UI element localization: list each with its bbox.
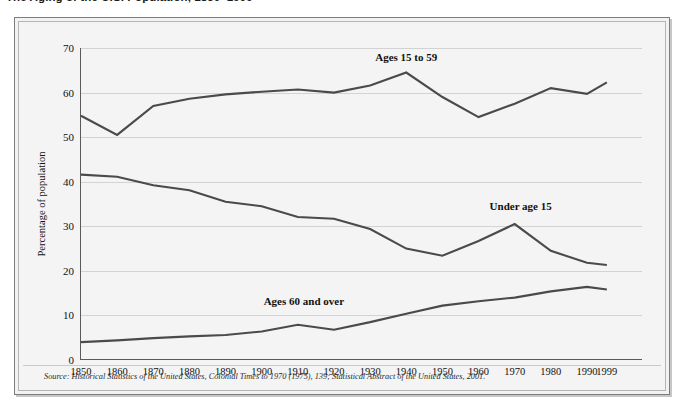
y-tick-60: 60 [63, 87, 74, 99]
chart-panel: Percentage of population 010203040506070… [14, 17, 670, 395]
series-label-old: Ages 60 and over [264, 295, 344, 307]
chart-panel-inner: Percentage of population 010203040506070… [18, 21, 666, 391]
y-tick-20: 20 [63, 265, 74, 277]
series-label-working: Ages 15 to 59 [375, 51, 437, 63]
y-tick-70: 70 [63, 42, 74, 54]
source-note: Source: Historical Statistics of the Uni… [44, 372, 485, 381]
page-title: The Aging of the U.S. Population, 1850–1… [6, 0, 253, 3]
y-axis-label: Percentage of population [36, 152, 47, 257]
plot-area: 010203040506070 185018601870188018901900… [80, 48, 642, 360]
x-tick-1980: 1980 [540, 366, 561, 377]
x-tick-1999: 1999 [596, 366, 617, 377]
series-label-young: Under age 15 [490, 200, 552, 212]
x-tick-1970: 1970 [504, 366, 525, 377]
series-line-under-age-15 [81, 175, 607, 265]
y-tick-40: 40 [63, 176, 74, 188]
y-tick-10: 10 [63, 309, 74, 321]
gridline-0 [81, 360, 642, 361]
y-tick-30: 30 [63, 220, 74, 232]
series-lines [81, 48, 643, 360]
x-tick-1990: 1990 [576, 366, 597, 377]
series-line-ages-15-to-59 [81, 73, 607, 135]
source-divider [23, 365, 661, 366]
figure-page: The Aging of the U.S. Population, 1850–1… [0, 0, 684, 411]
y-tick-50: 50 [63, 131, 74, 143]
